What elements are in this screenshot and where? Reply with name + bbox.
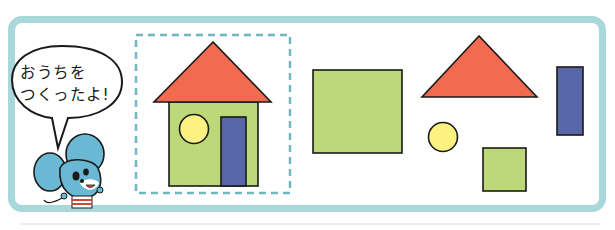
blue-rectangle xyxy=(557,67,583,135)
illustration xyxy=(0,0,615,230)
large-green-square xyxy=(313,70,402,153)
speech-line-2: つくったよ! xyxy=(20,84,120,106)
house-roof-triangle xyxy=(154,42,271,102)
red-triangle xyxy=(422,36,537,97)
speech-bubble-text: おうちを つくったよ! xyxy=(20,62,120,106)
yellow-circle xyxy=(429,123,458,152)
house-door-rectangle xyxy=(221,117,246,186)
small-green-square xyxy=(483,148,526,191)
house-composition xyxy=(154,42,271,186)
speech-line-1: おうちを xyxy=(20,62,120,84)
house-window-circle xyxy=(180,115,209,144)
mouse-character-icon xyxy=(34,134,104,208)
